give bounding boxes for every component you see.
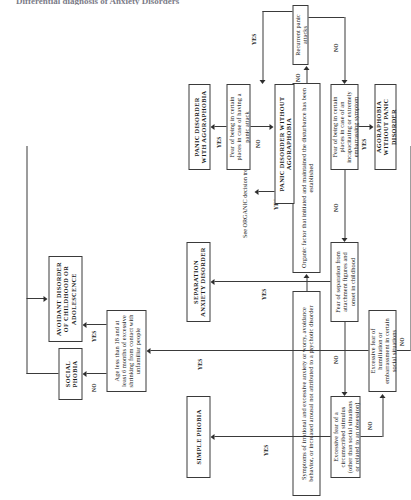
node-fear-places-incapacitating-text: Fear of being in certain places in case …	[330, 88, 358, 166]
edge-label-simple-yes: YES	[262, 444, 268, 456]
edge-simple-no-h	[382, 397, 383, 437]
edge-n1-n2-arrowhead	[303, 274, 309, 278]
edge-simple-yes-v	[214, 436, 330, 437]
edge-panic-no-h	[344, 17, 345, 80]
edge-label-social-no: NO	[398, 337, 404, 346]
edge-avoid-yes-arrowhead	[82, 322, 86, 328]
edge-label-panic-yes: YES	[250, 33, 256, 45]
node-dx-separation-anxiety-text: SEPARATION ANXIETY DISORDER	[191, 246, 205, 318]
edge-avoid-no-arrowhead	[82, 371, 86, 377]
node-separation-anxiety-criterion: Fear of separation from attachment figur…	[330, 242, 358, 322]
rail-avoidant-v	[26, 298, 44, 299]
edge-pdwoa-no-arrowhead	[269, 124, 273, 130]
edge-label-organic-no: NO	[294, 73, 300, 82]
edge-n1-n2	[306, 277, 307, 291]
edge-organic-yes-arrowhead	[254, 189, 258, 195]
node-organic-factor-text: Organic factor that initiated and mainta…	[299, 87, 313, 269]
node-entry-criterion-text: Symptoms of irrational and excessive anx…	[299, 295, 313, 492]
annotation-organic-tree: See ORGANIC decision tree	[240, 166, 247, 238]
edge-label-sep-yes: YES	[260, 288, 266, 300]
node-avoidant-criterion: Age less than 18 and at least 6 months o…	[106, 310, 146, 392]
node-social-phobia-criterion: Excessive fear of humiliation or embarra…	[368, 310, 396, 392]
node-dx-avoidant-disorder-text: AVOIDANT DISORDER OF CHILDHOOD OR ADOLES…	[54, 260, 75, 338]
edge-agora-yes-v	[358, 126, 370, 127]
edge-sep-no-h	[344, 322, 345, 392]
edge-avoid-yes-v	[86, 324, 106, 325]
edge-pdwoa-no-v	[250, 126, 270, 127]
node-dx-social-phobia-text: SOCIAL PHOBIA	[63, 352, 77, 396]
node-simple-phobia-criterion: Excessive fear of a circumscribed stimul…	[330, 396, 360, 478]
edge-sep-yes-arrowhead	[210, 279, 214, 285]
node-dx-agoraphobia-without-panic-text: AGORAPHOBIA WITHOUT PANIC DISORDER	[374, 88, 395, 166]
edge-label-pdwoa-no: NO	[254, 139, 260, 148]
node-organic-factor: Organic factor that initiated and mainta…	[292, 83, 320, 273]
node-dx-social-phobia: SOCIAL PHOBIA	[58, 348, 82, 400]
node-dx-separation-anxiety: SEPARATION ANXIETY DISORDER	[186, 242, 210, 322]
edge-social-no-v	[396, 350, 410, 351]
edge-simple-no-v	[360, 436, 382, 437]
edge-label-avoid-yes: YES	[90, 330, 96, 342]
edge-sep-yes-v	[214, 281, 330, 282]
edge-label-agora-yes: YES	[360, 138, 366, 150]
node-dx-simple-phobia: SIMPLE PHOBIA	[186, 396, 210, 478]
rail-avoidant-arrowhead	[43, 296, 47, 302]
edge-pdwa-yes-arrowhead	[210, 124, 214, 130]
node-simple-phobia-criterion-text: Excessive fear of a circumscribed stimul…	[331, 400, 359, 474]
edge-organic-no	[306, 69, 307, 83]
node-dx-agoraphobia-without-panic: AGORAPHOBIA WITHOUT PANIC DISORDER	[374, 84, 396, 170]
edge-agora-no-h	[344, 170, 345, 238]
edge-pdwa-yes-v	[214, 126, 226, 127]
node-dx-panic-without-agoraphobia: PANIC DISORDER WITHOUT AGORAPHOBIA	[274, 84, 294, 204]
edge-organic-no-arrowhead	[303, 66, 309, 70]
edge-agora-yes-arrowhead	[369, 124, 373, 130]
node-dx-panic-without-agoraphobia-text: PANIC DISORDER WITHOUT AGORAPHOBIA	[277, 88, 291, 200]
edge-label-agora-no: NO	[332, 203, 338, 212]
node-separation-anxiety-criterion-text: Fear of separation from attachment figur…	[333, 246, 354, 318]
edge-panic-yes-h	[262, 11, 263, 80]
rail-top-h	[26, 146, 27, 374]
rail-social-phobia-v	[26, 373, 58, 374]
edge-simple-yes-arrowhead	[210, 434, 214, 440]
edge-label-pdwa-yes: YES	[215, 136, 221, 148]
edge-label-avoid-no: NO	[90, 383, 96, 392]
edge-label-panic-no: NO	[332, 43, 338, 52]
node-fear-places-panic-text: Fear of being in certain places in case …	[227, 88, 248, 166]
edge-simple-no-arrowhead	[379, 394, 385, 398]
edge-avoid-no-v	[86, 373, 106, 374]
edge-panic-yes-arrowhead	[259, 80, 265, 84]
edge-label-sep-no: NO	[332, 355, 338, 364]
edge-panic-no-v	[308, 17, 344, 18]
edge-panic-yes-v	[262, 11, 292, 12]
node-avoidant-criterion-text: Age less than 18 and at least 6 months o…	[112, 314, 140, 388]
edge-label-simple-no: NO	[366, 421, 372, 430]
node-dx-panic-with-agoraphobia-text: PANIC DISORDER WITH AGORAPHOBIA	[192, 88, 206, 166]
node-fear-places-panic: Fear of being in certain places in case …	[226, 84, 250, 170]
edge-social-yes-v	[150, 350, 368, 351]
node-recurrent-panic-text: Recurrent panic attacks	[293, 9, 307, 61]
node-dx-panic-with-agoraphobia: PANIC DISORDER WITH AGORAPHOBIA	[188, 84, 210, 170]
node-recurrent-panic: Recurrent panic attacks	[292, 5, 308, 65]
node-dx-simple-phobia-text: SIMPLE PHOBIA	[194, 409, 201, 464]
node-fear-places-incapacitating: Fear of being in certain places in case …	[330, 84, 358, 170]
node-social-phobia-criterion-text: Excessive fear of humiliation or embarra…	[368, 314, 396, 388]
edge-social-yes-arrowhead	[146, 348, 150, 354]
node-dx-avoidant-disorder: AVOIDANT DISORDER OF CHILDHOOD OR ADOLES…	[48, 256, 82, 342]
edge-label-social-yes: YES	[196, 358, 202, 370]
node-entry-criterion: Symptoms of irrational and excessive anx…	[292, 291, 320, 496]
